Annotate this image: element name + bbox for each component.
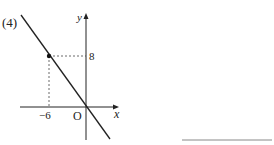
y-axis-label: y [77, 12, 82, 23]
x-axis-label: x [114, 108, 119, 120]
y-tick-label: 8 [89, 51, 95, 62]
graph-diagram [0, 0, 274, 145]
marked-point [47, 54, 51, 58]
graph-line [21, 15, 110, 139]
problem-number: (4) [2, 16, 17, 29]
x-tick-label: −6 [39, 110, 51, 121]
origin-label: O [73, 110, 82, 122]
y-axis-arrow-icon [84, 13, 89, 19]
